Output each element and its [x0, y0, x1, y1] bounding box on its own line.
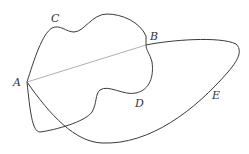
label-b: B — [149, 30, 158, 43]
curve-e — [27, 39, 239, 143]
curve-c — [27, 14, 146, 82]
curve-d — [27, 45, 152, 132]
label-d: D — [134, 97, 144, 110]
label-c: C — [51, 12, 60, 25]
diagram-canvas: A B C D E — [0, 0, 249, 154]
label-a: A — [12, 76, 21, 89]
chord-ab — [27, 45, 146, 82]
label-e: E — [211, 89, 220, 102]
